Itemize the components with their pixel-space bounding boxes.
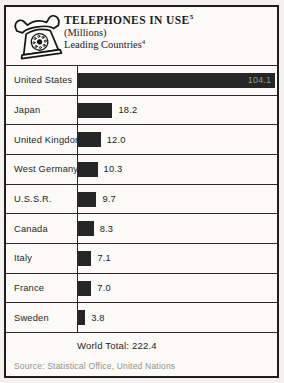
value-bar bbox=[78, 103, 112, 118]
chart-frame: TELEPHONES IN USE5 (Millions) Leading Co… bbox=[4, 5, 279, 378]
value-bar: 104.1 bbox=[78, 73, 275, 88]
bar-track: 7.1 bbox=[77, 244, 277, 273]
value-bar bbox=[78, 281, 91, 296]
units-subtitle: (Millions) bbox=[64, 27, 194, 38]
value-bar bbox=[78, 251, 91, 266]
bar-track: 8.3 bbox=[77, 214, 277, 243]
value-label: 18.2 bbox=[118, 105, 137, 115]
bar-track: 10.3 bbox=[77, 155, 277, 184]
value-bar bbox=[78, 132, 101, 147]
bar-track: 9.7 bbox=[77, 185, 277, 214]
country-row: Sweden3.8 bbox=[6, 303, 277, 333]
chart-footer: World Total: 222.4 Source: Statistical O… bbox=[6, 333, 277, 376]
value-label: 12.0 bbox=[107, 135, 126, 145]
scope-footnote-mark: 4 bbox=[142, 38, 146, 46]
country-label: Japan bbox=[6, 105, 77, 115]
country-label: Canada bbox=[6, 224, 77, 234]
country-row: West Germany10.3 bbox=[6, 155, 277, 185]
country-label: U.S.S.R. bbox=[6, 194, 77, 204]
value-label: 3.8 bbox=[91, 313, 105, 323]
value-label: 10.3 bbox=[104, 164, 123, 174]
bar-track: 18.2 bbox=[77, 96, 277, 125]
chart-card: TELEPHONES IN USE5 (Millions) Leading Co… bbox=[0, 0, 284, 383]
bar-chart: United States104.1Japan18.2United Kingdo… bbox=[6, 66, 277, 333]
page-title: TELEPHONES IN USE5 bbox=[64, 14, 194, 26]
country-label: West Germany bbox=[6, 164, 77, 174]
page-title-text: TELEPHONES IN USE bbox=[64, 14, 190, 26]
value-label: 7.0 bbox=[97, 283, 111, 293]
value-label: 7.1 bbox=[97, 253, 111, 263]
country-row: United States104.1 bbox=[6, 66, 277, 96]
chart-header: TELEPHONES IN USE5 (Millions) Leading Co… bbox=[6, 7, 277, 66]
bar-track: 12.0 bbox=[77, 125, 277, 154]
value-label: 104.1 bbox=[248, 75, 272, 85]
value-label: 8.3 bbox=[100, 224, 114, 234]
value-bar bbox=[78, 192, 96, 207]
country-row: United Kingdom12.0 bbox=[6, 125, 277, 155]
title-footnote-mark: 5 bbox=[190, 13, 194, 21]
country-row: U.S.S.R.9.7 bbox=[6, 185, 277, 215]
country-label: Sweden bbox=[6, 313, 77, 323]
country-row: Canada8.3 bbox=[6, 214, 277, 244]
country-label: France bbox=[6, 283, 77, 293]
bar-track: 7.0 bbox=[77, 274, 277, 303]
country-row: Italy7.1 bbox=[6, 244, 277, 274]
value-bar bbox=[78, 162, 98, 177]
world-total: World Total: 222.4 bbox=[77, 340, 277, 351]
rotary-telephone-icon bbox=[10, 10, 66, 62]
bar-track: 3.8 bbox=[77, 303, 277, 332]
country-label: United States bbox=[6, 75, 77, 85]
country-label: United Kingdom bbox=[6, 135, 77, 145]
bar-track: 104.1 bbox=[77, 66, 277, 95]
scope-subtitle: Leading Countries4 bbox=[64, 39, 194, 50]
value-label: 9.7 bbox=[102, 194, 116, 204]
country-row: France7.0 bbox=[6, 274, 277, 304]
scope-subtitle-text: Leading Countries bbox=[64, 39, 142, 50]
country-label: Italy bbox=[6, 253, 77, 263]
value-bar bbox=[78, 221, 94, 236]
title-block: TELEPHONES IN USE5 (Millions) Leading Co… bbox=[64, 14, 194, 50]
source-note: Source: Statistical Office, United Natio… bbox=[14, 361, 175, 371]
value-bar bbox=[78, 310, 85, 325]
country-row: Japan18.2 bbox=[6, 96, 277, 126]
